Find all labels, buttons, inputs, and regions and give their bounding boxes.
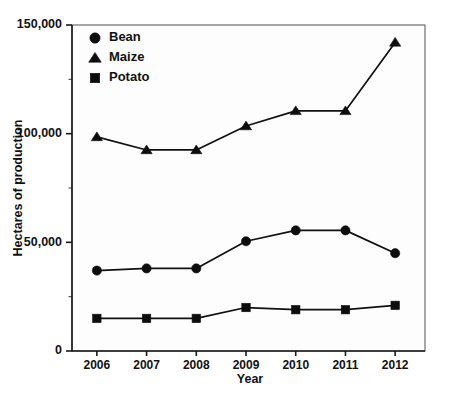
y-tick-label: 50,000 (24, 235, 62, 249)
data-point (291, 226, 300, 235)
x-tick-label: 2006 (84, 358, 111, 372)
chart-legend: BeanMaizePotato (89, 29, 150, 84)
x-tick-label: 2008 (183, 358, 210, 372)
legend-label-potato: Potato (109, 69, 150, 84)
chart-container: 050,000100,000150,000 200620072008200920… (0, 0, 450, 393)
data-point (242, 303, 250, 311)
data-point (292, 306, 300, 314)
data-point (341, 306, 349, 314)
legend-marker-potato (90, 73, 99, 82)
x-tick-label: 2011 (332, 358, 358, 372)
data-point (192, 264, 201, 273)
y-axis-title: Hectares of production (11, 120, 25, 257)
line-chart: 050,000100,000150,000 200620072008200920… (0, 0, 450, 393)
data-point (391, 249, 400, 258)
data-point (142, 264, 151, 273)
x-tick-label: 2009 (233, 358, 260, 372)
y-tick-label: 0 (55, 343, 62, 357)
legend-label-maize: Maize (109, 49, 144, 64)
data-point (391, 301, 399, 309)
legend-label-bean: Bean (109, 29, 141, 44)
x-tick-label: 2012 (382, 358, 409, 372)
legend-marker-bean (90, 33, 100, 43)
data-point (93, 314, 101, 322)
x-axis-title: Year (237, 372, 264, 386)
x-tick-label: 2010 (282, 358, 309, 372)
data-point (142, 314, 150, 322)
data-point (341, 226, 350, 235)
data-point (192, 314, 200, 322)
data-point (241, 237, 250, 246)
data-point (92, 266, 101, 275)
y-tick-label: 150,000 (17, 17, 62, 31)
x-tick-label: 2007 (133, 358, 160, 372)
